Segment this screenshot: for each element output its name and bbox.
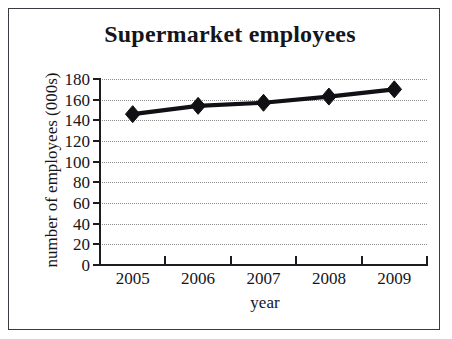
y-tick-label: 0	[46, 257, 90, 274]
y-tick-mark	[93, 78, 101, 80]
y-tick-mark	[93, 119, 101, 121]
data-point-marker	[191, 97, 205, 114]
data-point-marker	[322, 88, 336, 105]
x-tick-mark	[295, 256, 297, 266]
y-tick-label: 100	[46, 154, 90, 171]
y-tick-mark	[93, 223, 101, 225]
data-markers-group	[125, 81, 401, 123]
y-axis-line	[99, 78, 101, 266]
y-tick-label: 120	[46, 133, 90, 150]
x-tick-label: 2005	[98, 269, 168, 289]
x-tick-mark	[99, 256, 101, 266]
y-tick-label: 20	[46, 236, 90, 253]
y-tick-mark	[93, 99, 101, 101]
x-tick-mark	[361, 256, 363, 266]
y-tick-label: 40	[46, 216, 90, 233]
x-tick-label: 2009	[359, 269, 429, 289]
x-tick-mark	[426, 256, 428, 266]
x-axis-line	[99, 264, 427, 266]
x-tick-label: 2006	[163, 269, 233, 289]
x-tick-label: 2008	[294, 269, 364, 289]
y-tick-label: 80	[46, 174, 90, 191]
y-tick-mark	[93, 202, 101, 204]
y-tick-mark	[93, 140, 101, 142]
y-tick-mark	[93, 243, 101, 245]
x-tick-mark	[164, 256, 166, 266]
y-tick-mark	[93, 161, 101, 163]
data-point-marker	[387, 81, 401, 98]
y-tick-label: 140	[46, 112, 90, 129]
x-tick-mark	[230, 256, 232, 266]
y-tick-label: 160	[46, 92, 90, 109]
data-point-marker	[125, 106, 139, 123]
plot-area	[100, 79, 427, 265]
chart-title: Supermarket employees	[40, 21, 420, 48]
chart-figure: Supermarket employees number of employee…	[0, 0, 452, 339]
y-tick-label: 60	[46, 195, 90, 212]
y-tick-mark	[93, 181, 101, 183]
data-point-marker	[256, 94, 270, 111]
x-tick-label: 2007	[229, 269, 299, 289]
x-axis-label: year	[100, 293, 430, 313]
y-tick-label: 180	[46, 71, 90, 88]
series-canvas	[100, 79, 427, 265]
